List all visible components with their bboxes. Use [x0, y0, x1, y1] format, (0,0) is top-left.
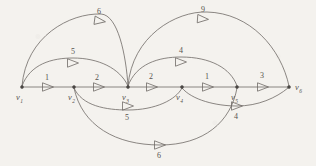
edge-arrowhead-icon — [197, 14, 209, 23]
edge-arrowhead-icon — [94, 16, 106, 26]
node-label-v2: v2 — [68, 92, 75, 104]
edge-weight-label: 3 — [260, 71, 264, 80]
graph-edge — [74, 88, 237, 145]
edge-weight-label: 5 — [125, 113, 129, 122]
arrowhead-layer — [43, 14, 269, 149]
node-label-subscript-v2: 2 — [72, 98, 75, 104]
edge-weight-label: 9 — [201, 5, 205, 14]
edge-weight-label: 5 — [71, 47, 75, 56]
edge-weight-label: 2 — [95, 73, 99, 82]
graph-node-v3 — [127, 86, 130, 89]
edge-arrowhead-icon — [68, 59, 79, 67]
graph-edge — [22, 14, 128, 86]
node-label-v4: v4 — [176, 92, 183, 104]
edge-arrowhead-icon — [176, 58, 187, 66]
node-label-subscript-v3: 3 — [125, 98, 129, 104]
node-label-subscript-v5: 5 — [235, 98, 238, 104]
edge-weight-label: 1 — [45, 73, 49, 82]
edge-weight-label: 1 — [205, 72, 209, 81]
node-label-v1: v1 — [16, 92, 23, 104]
graph-node-v1 — [21, 86, 24, 89]
node-label-subscript-v4: 4 — [180, 98, 183, 104]
node-label-v5: v5 — [231, 92, 238, 104]
graph-node-v6 — [288, 86, 291, 89]
node-label-subscript-v6: 6 — [299, 88, 302, 94]
graph-node-v5 — [236, 86, 239, 89]
graph-node-v2 — [73, 86, 76, 89]
edge-layer — [22, 12, 289, 145]
edge-weight-label: 2 — [149, 72, 153, 81]
node-label-v3: v3 — [122, 92, 129, 104]
edge-weight-label: 6 — [97, 7, 101, 16]
weight-label-layer: 122136954564 — [45, 5, 264, 160]
edge-weight-label: 4 — [234, 112, 238, 121]
edge-weight-label: 6 — [157, 151, 161, 160]
graph-node-v4 — [181, 86, 184, 89]
graph-figure: 122136954564 v1v2v3v4v5v6 — [0, 0, 316, 166]
node-label-subscript-v1: 1 — [20, 98, 23, 104]
graph-edge — [128, 57, 237, 86]
node-label-v6: v6 — [295, 82, 302, 94]
graph-canvas: 122136954564 v1v2v3v4v5v6 — [0, 0, 316, 166]
edge-weight-label: 4 — [179, 46, 183, 55]
graph-edge — [22, 58, 128, 86]
node-layer: v1v2v3v4v5v6 — [16, 82, 302, 104]
